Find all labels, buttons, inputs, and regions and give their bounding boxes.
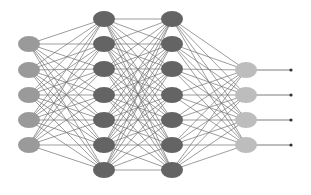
input-node xyxy=(18,137,40,153)
input-layer xyxy=(18,36,40,153)
connection xyxy=(172,69,246,70)
hidden-node xyxy=(161,87,183,103)
output-node xyxy=(235,112,257,128)
input-node xyxy=(18,62,40,78)
connection xyxy=(172,95,246,170)
hidden-node xyxy=(93,11,115,27)
hidden-node xyxy=(93,87,115,103)
connection xyxy=(172,19,246,70)
connection xyxy=(172,145,246,170)
connection xyxy=(29,19,104,44)
output-terminal-icon xyxy=(289,143,292,146)
hidden-node xyxy=(161,11,183,27)
hidden-node xyxy=(93,137,115,153)
hidden-node xyxy=(161,162,183,178)
connection xyxy=(29,19,104,95)
hidden-node xyxy=(93,61,115,77)
neural-network-diagram xyxy=(0,0,311,195)
connections xyxy=(29,19,246,170)
hidden-node xyxy=(93,36,115,52)
hidden-node xyxy=(161,61,183,77)
connection xyxy=(172,44,246,70)
input-node xyxy=(18,36,40,52)
connection xyxy=(29,145,104,170)
input-node xyxy=(18,87,40,103)
hidden-node xyxy=(161,36,183,52)
output-lines xyxy=(246,68,293,146)
output-terminal-icon xyxy=(289,118,292,121)
output-terminal-icon xyxy=(289,93,292,96)
output-node xyxy=(235,137,257,153)
connection xyxy=(29,19,104,70)
connection xyxy=(29,19,104,145)
output-terminal-icon xyxy=(289,68,292,71)
output-layer xyxy=(235,62,257,153)
hidden-node xyxy=(161,137,183,153)
hidden-node xyxy=(161,112,183,128)
hidden-node xyxy=(93,162,115,178)
output-node xyxy=(235,62,257,78)
input-node xyxy=(18,112,40,128)
neural-network-canvas xyxy=(0,0,311,195)
hidden-node xyxy=(93,112,115,128)
output-node xyxy=(235,87,257,103)
